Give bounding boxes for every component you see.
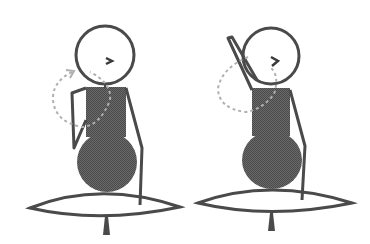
illustration: [0, 0, 370, 244]
body-lower-left: [77, 132, 137, 192]
head-left: [76, 26, 134, 84]
torso-left: [86, 87, 126, 137]
cushion-right: [198, 190, 352, 212]
cushion-stem-left: [103, 216, 110, 235]
body-lower-right: [242, 131, 302, 189]
figure-right: [198, 28, 352, 231]
cushion-stem-right: [268, 213, 275, 231]
head-right: [243, 28, 299, 84]
cushion-left: [30, 194, 180, 216]
torso-right: [252, 88, 290, 136]
arm-bent-left: [72, 88, 86, 148]
figure-left: [30, 26, 180, 235]
